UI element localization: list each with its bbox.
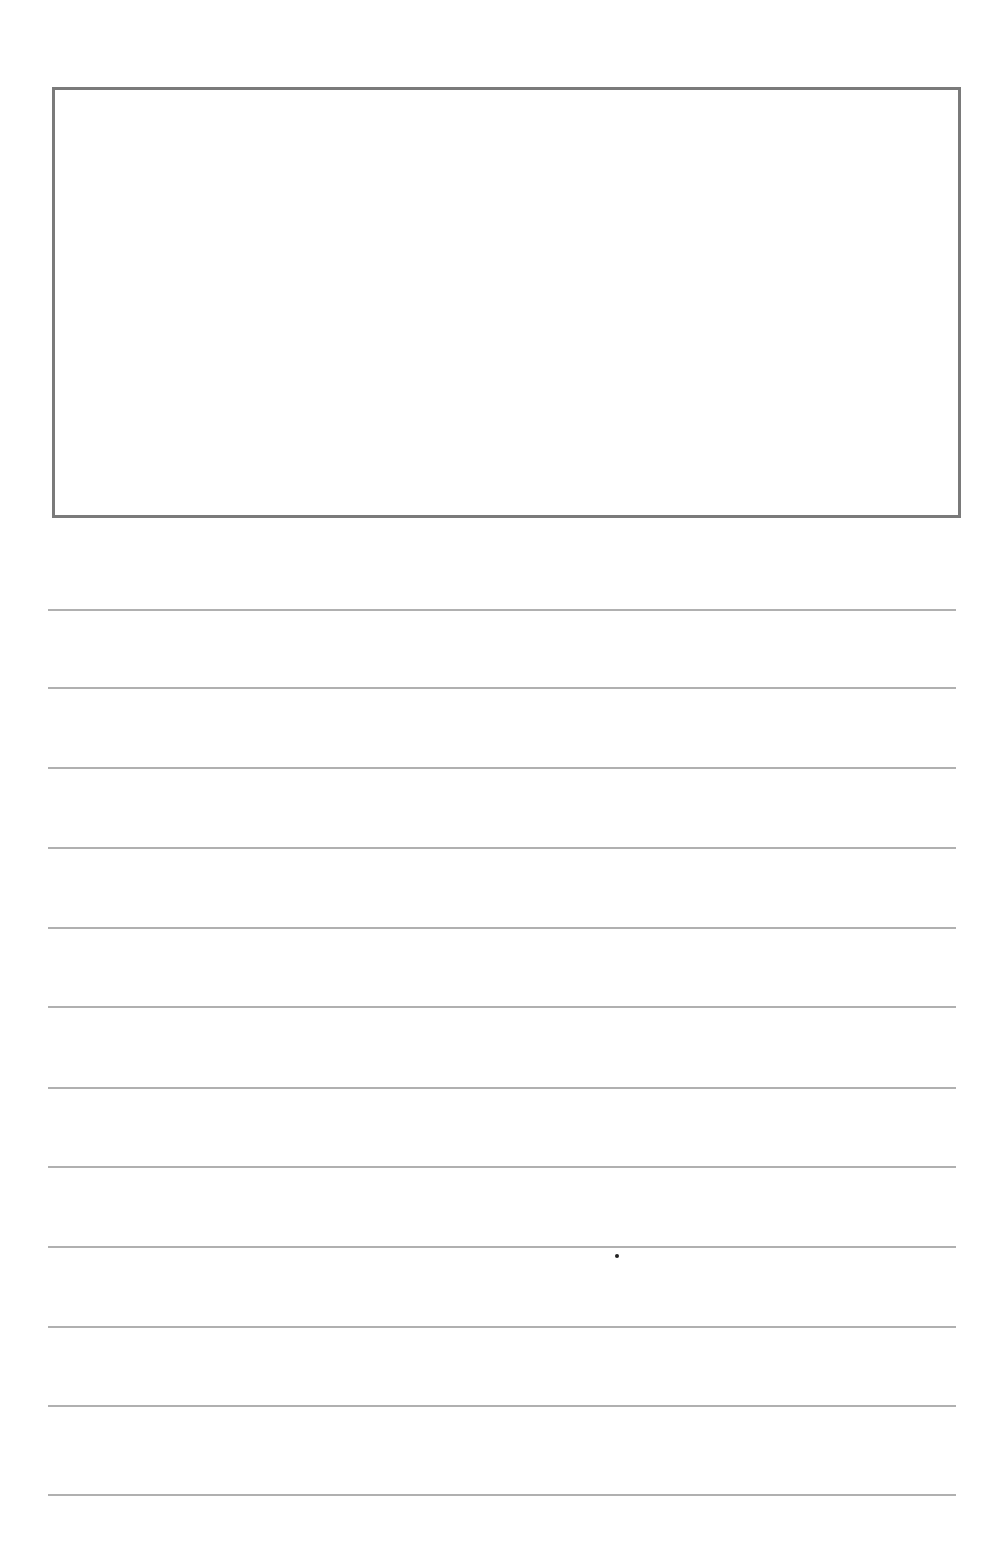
ruled-line: [48, 609, 956, 611]
ruled-line: [48, 1494, 956, 1496]
ruled-line: [48, 1246, 956, 1248]
ruled-line: [48, 847, 956, 849]
drawing-box: [52, 87, 961, 518]
ruled-line: [48, 1006, 956, 1008]
ruled-line: [48, 767, 956, 769]
ruled-line: [48, 1405, 956, 1407]
stray-dot: [615, 1254, 619, 1258]
ruled-line: [48, 1087, 956, 1089]
ruled-line: [48, 1166, 956, 1168]
ruled-line: [48, 1326, 956, 1328]
ruled-line: [48, 687, 956, 689]
ruled-line: [48, 927, 956, 929]
